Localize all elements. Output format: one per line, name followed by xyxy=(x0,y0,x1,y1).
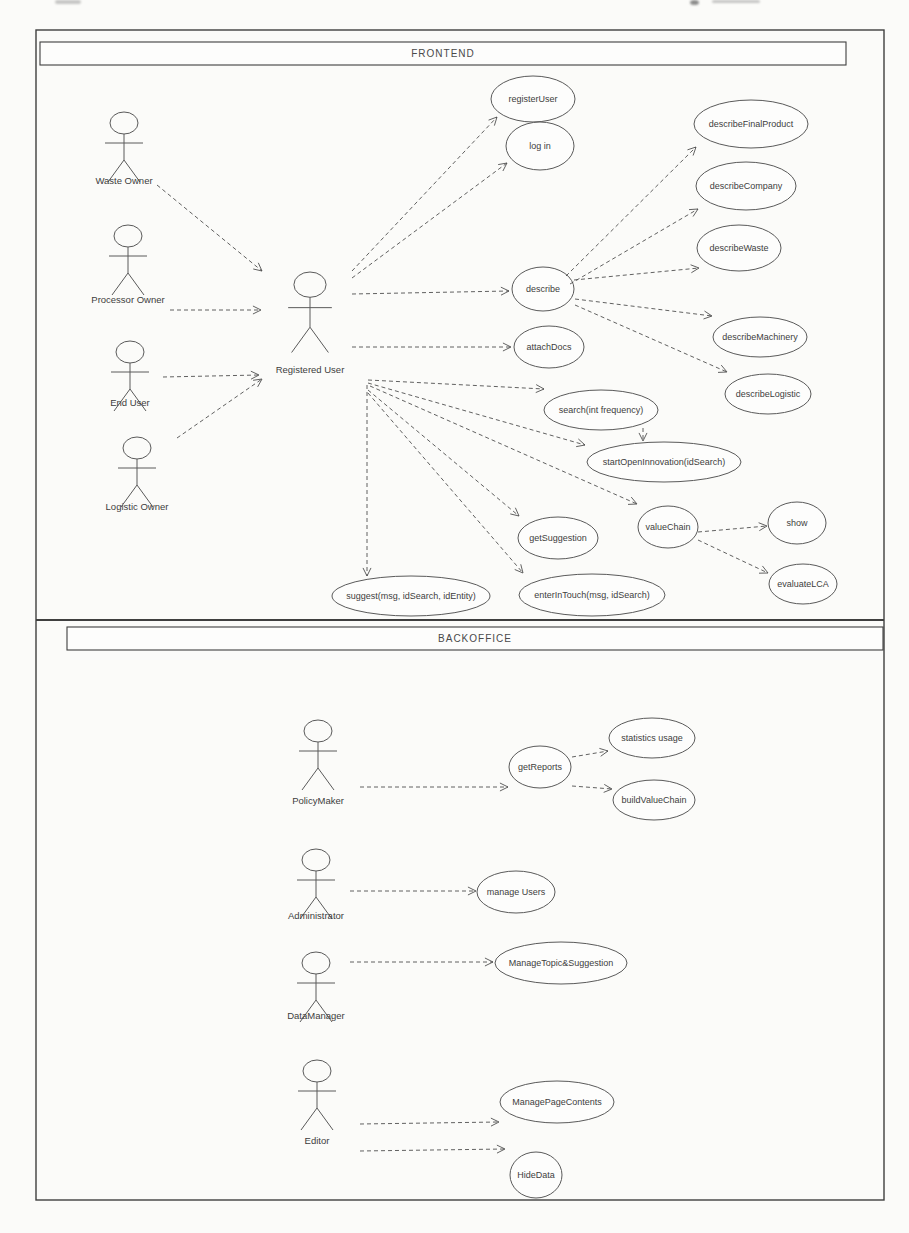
usecase-manage-page-contents: ManagePageContents xyxy=(500,1081,614,1123)
actor-head xyxy=(303,1060,331,1082)
usecase-start-open-innovation: startOpenInnovation(idSearch) xyxy=(587,442,741,482)
actor-head xyxy=(123,437,151,459)
dependency-line xyxy=(157,185,262,271)
arrow-describe-to-describe-company xyxy=(570,209,698,284)
dependency-line xyxy=(575,305,727,372)
arrow-registered-user-to-search xyxy=(368,380,544,393)
arrow-value-chain-to-evaluate-lca xyxy=(698,540,768,573)
usecase-describe-logistic: describeLogistic xyxy=(725,374,811,414)
usecase-label: describeFinalProduct xyxy=(709,119,794,129)
dependency-line xyxy=(352,291,509,294)
usecase-label: statistics usage xyxy=(621,733,683,743)
usecase-label: getSuggestion xyxy=(529,533,587,543)
usecase-label: startOpenInnovation(idSearch) xyxy=(603,457,726,467)
usecase-search: search(int frequency) xyxy=(544,390,658,430)
usecase-register-user: registerUser xyxy=(491,76,575,122)
dependency-line xyxy=(163,375,259,377)
arrow-processor-owner-to-registered-user xyxy=(170,306,261,314)
actor-processor-owner: Processor Owner xyxy=(91,225,164,305)
usecase-label: attachDocs xyxy=(526,342,572,352)
arrow-registered-user-to-get-suggestion xyxy=(368,390,519,516)
usecase-label: buildValueChain xyxy=(622,795,687,805)
arrow-describe-to-describe-final-product xyxy=(566,147,696,276)
actor-label: Administrator xyxy=(288,910,344,921)
actor-label: PolicyMaker xyxy=(292,795,344,806)
usecase-suggest: suggest(msg, idSearch, idEntity) xyxy=(332,576,490,616)
usecase-label: HideData xyxy=(517,1170,555,1180)
usecase-describe-waste: describeWaste xyxy=(697,225,781,271)
actor-right-leg xyxy=(310,327,328,352)
dependency-line xyxy=(368,380,544,389)
dependency-line xyxy=(570,209,698,284)
backoffice-title-bar xyxy=(67,627,883,650)
arrow-describe-to-describe-waste xyxy=(574,265,699,280)
usecase-label: show xyxy=(786,518,808,528)
dependency-line xyxy=(566,147,696,276)
usecase-get-suggestion: getSuggestion xyxy=(518,517,598,559)
usecase-label: describe xyxy=(526,284,560,294)
usecase-label: ManagePageContents xyxy=(512,1097,602,1107)
actor-label: DataManager xyxy=(287,1010,345,1021)
actor-end-user: End User xyxy=(110,341,150,411)
arrow-waste-owner-to-registered-user xyxy=(157,185,262,271)
usecase-label: log in xyxy=(529,141,551,151)
dependency-line xyxy=(368,393,523,573)
actor-waste-owner: Waste Owner xyxy=(95,112,152,186)
arrow-editor-to-hide-data xyxy=(360,1145,505,1153)
actor-head xyxy=(304,720,332,742)
usecase-get-reports: getReports xyxy=(509,746,571,788)
arrow-registered-user-to-suggest xyxy=(363,385,371,576)
arrow-search-to-start-open-innovation xyxy=(639,428,647,441)
dependency-line xyxy=(575,299,712,316)
usecase-manage-topic-suggestion: ManageTopic&Suggestion xyxy=(495,942,627,984)
actor-data-manager: DataManager xyxy=(287,952,345,1022)
actor-left-leg xyxy=(292,327,310,352)
usecase-label: search(int frequency) xyxy=(559,405,644,415)
actor-label: Logistic Owner xyxy=(106,501,169,512)
usecase-value-chain: valueChain xyxy=(638,506,698,548)
usecase-build-value-chain: buildValueChain xyxy=(613,780,695,820)
dependency-line xyxy=(360,1149,505,1151)
dependency-line xyxy=(572,751,608,757)
arrow-value-chain-to-show xyxy=(698,523,767,532)
arrow-editor-to-manage-page-contents xyxy=(360,1118,499,1126)
arrow-logistic-owner-to-registered-user xyxy=(177,379,262,438)
dependency-line xyxy=(352,163,507,278)
dependency-line xyxy=(698,540,768,573)
usecase-label: describeCompany xyxy=(710,181,783,191)
arrow-data-manager-to-manage-topic-suggestion xyxy=(350,958,493,966)
usecase-statistics-usage: statistics usage xyxy=(609,718,695,758)
actor-label: Processor Owner xyxy=(91,294,164,305)
actor-editor: Editor xyxy=(298,1060,336,1146)
actor-left-leg xyxy=(301,1108,317,1130)
arrow-registered-user-to-describe xyxy=(352,287,509,295)
arrow-registered-user-to-login xyxy=(352,163,507,278)
actor-head xyxy=(116,341,144,363)
usecase-label: ManageTopic&Suggestion xyxy=(509,958,614,968)
usecase-label: manage Users xyxy=(487,887,546,897)
actor-head xyxy=(294,272,326,297)
usecase-manage-users: manage Users xyxy=(477,871,555,913)
arrow-registered-user-to-enter-in-touch xyxy=(368,393,523,573)
usecase-label: evaluateLCA xyxy=(777,579,829,589)
arrow-registered-user-to-register-user xyxy=(352,117,497,271)
actor-right-leg xyxy=(317,1108,333,1130)
usecase-enter-in-touch: enterInTouch(msg, idSearch) xyxy=(519,574,665,616)
usecase-describe-machinery: describeMachinery xyxy=(713,317,807,357)
arrowhead xyxy=(704,311,712,319)
arrow-end-user-to-registered-user xyxy=(163,371,259,379)
actor-left-leg xyxy=(112,273,128,295)
usecase-attach-docs: attachDocs xyxy=(514,326,584,368)
dependency-line xyxy=(572,786,612,789)
actor-administrator: Administrator xyxy=(288,849,344,921)
dependency-line xyxy=(352,117,497,271)
usecase-label: describeMachinery xyxy=(722,332,798,342)
dependency-line xyxy=(360,1122,499,1124)
arrow-get-reports-to-build-value-chain xyxy=(572,784,612,792)
actor-registered-user: Registered User xyxy=(276,272,345,375)
actor-left-leg xyxy=(302,768,318,790)
actor-head xyxy=(302,952,330,974)
arrow-describe-to-describe-machinery xyxy=(575,299,712,319)
arrow-registered-user-to-attach-docs xyxy=(352,343,511,351)
usecase-hide-data: HideData xyxy=(510,1152,562,1198)
